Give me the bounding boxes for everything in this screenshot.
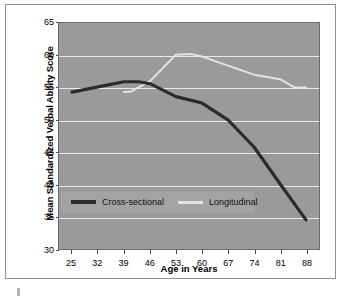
legend-label: Longitudinal — [209, 197, 258, 207]
x-axis-title: Age in Years — [58, 263, 320, 274]
y-tick-label: 50 — [32, 115, 54, 125]
plot-area: Cross-sectionalLongitudinal — [58, 22, 320, 250]
x-tick-mark — [97, 250, 98, 254]
x-tick-mark — [255, 250, 256, 254]
x-tick-mark — [150, 250, 151, 254]
x-tick-mark — [71, 250, 72, 254]
legend-item: Longitudinal — [178, 197, 258, 207]
page-artifact-mark — [17, 288, 20, 296]
x-tick-mark — [202, 250, 203, 254]
legend-label: Cross-sectional — [102, 197, 164, 207]
x-tick-mark — [228, 250, 229, 254]
x-tick-mark — [176, 250, 177, 254]
legend-item: Cross-sectional — [71, 197, 164, 207]
y-tick-label: 65 — [32, 17, 54, 27]
y-tick-label: 45 — [32, 147, 54, 157]
y-tick-label: 55 — [32, 82, 54, 92]
legend-swatch-icon — [71, 200, 96, 204]
y-axis-ticks: 3035404550556065 — [30, 22, 54, 250]
x-tick-mark — [281, 250, 282, 254]
legend-swatch-icon — [178, 201, 203, 204]
chart-legend: Cross-sectionalLongitudinal — [61, 191, 254, 213]
x-tick-mark — [124, 250, 125, 254]
y-tick-label: 30 — [32, 245, 54, 255]
y-tick-label: 35 — [32, 212, 54, 222]
y-tick-label: 40 — [32, 180, 54, 190]
y-tick-label: 60 — [32, 50, 54, 60]
x-tick-mark — [307, 250, 308, 254]
chart-figure: Mean Standardized Verbal Ability Score 3… — [0, 0, 343, 301]
series-line-longitudinal — [124, 54, 306, 92]
series-layer — [59, 23, 319, 249]
